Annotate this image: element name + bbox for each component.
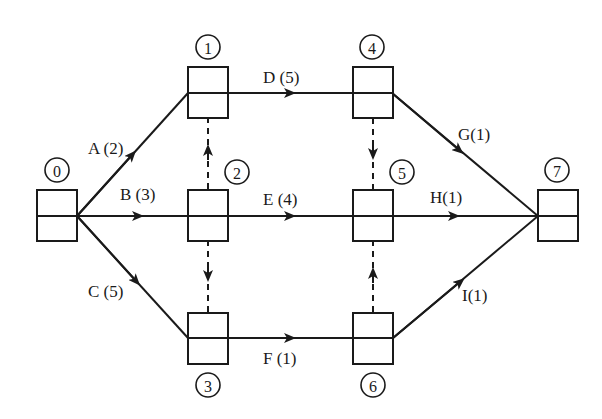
activity-i: I(1): [393, 216, 538, 338]
activity-e: E (4): [228, 190, 353, 216]
activity-g: G(1): [392, 93, 538, 216]
activity-f-label: F (1): [263, 349, 297, 368]
activity-d: D (5): [228, 68, 353, 93]
activity-h: H(1): [392, 188, 538, 216]
node-1-id: 1: [204, 40, 212, 57]
node-2-id: 2: [233, 165, 241, 182]
activity-i-label: I(1): [462, 286, 487, 305]
node-4: 4: [353, 35, 393, 118]
node-3-id: 3: [204, 378, 212, 395]
node-2: 2: [188, 160, 249, 241]
activity-g-label: G(1): [458, 125, 490, 144]
activity-b: B (3): [77, 185, 188, 216]
node-0: 0: [37, 158, 77, 241]
activity-f: F (1): [228, 338, 353, 368]
node-5-id: 5: [398, 165, 406, 182]
node-3: 3: [188, 313, 228, 397]
node-1: 1: [188, 35, 228, 118]
activity-a-label: A (2): [88, 139, 123, 158]
activity-h-label: H(1): [430, 188, 462, 207]
node-6-id: 6: [369, 378, 377, 395]
node-0-id: 0: [53, 163, 61, 180]
activity-d-label: D (5): [263, 68, 299, 87]
node-7: 7: [538, 158, 578, 241]
node-5: 5: [353, 160, 414, 241]
node-4-id: 4: [368, 40, 376, 57]
node-6: 6: [353, 313, 393, 397]
node-7-id: 7: [553, 163, 561, 180]
activity-c-label: C (5): [88, 282, 123, 301]
activity-e-label: E (4): [263, 190, 297, 209]
activity-c: C (5): [77, 216, 188, 338]
activity-b-label: B (3): [120, 185, 155, 204]
network-diagram: A (2) B (3) C (5) D (5) E (4) F (1) G(1): [0, 0, 602, 419]
